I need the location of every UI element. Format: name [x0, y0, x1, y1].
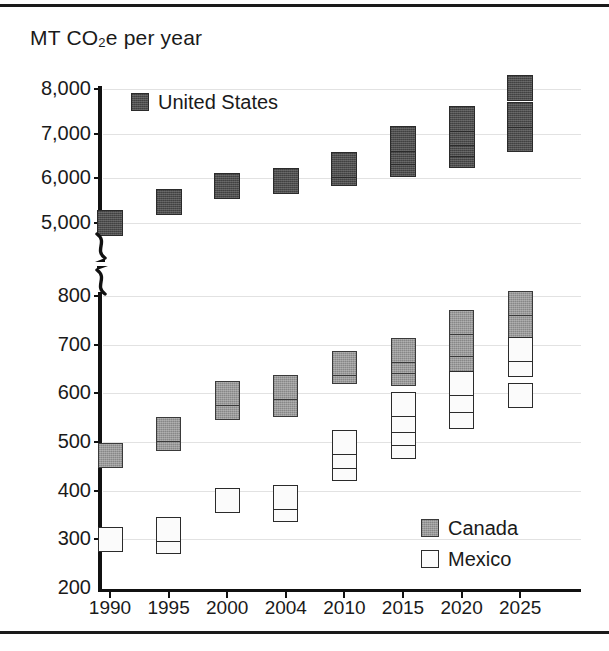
legend-item-united-states: United States [131, 92, 278, 112]
x-axis-label: 2025 [499, 597, 541, 619]
x-axis-label: 2000 [206, 597, 248, 619]
y-axis-label: 6,000 [41, 167, 91, 187]
data-marker [508, 291, 533, 316]
x-axis-label: 1995 [147, 597, 189, 619]
y-axis-label: 500 [58, 431, 91, 451]
x-axis-label: 2015 [382, 597, 424, 619]
gridline [103, 491, 581, 492]
x-axis-label: 2020 [440, 597, 482, 619]
data-marker [449, 106, 475, 132]
gridline [103, 223, 581, 224]
plot-area: 5,0006,0007,0008,00020030040050060070080… [0, 0, 609, 651]
y-axis-label: 5,000 [41, 212, 91, 232]
data-marker [508, 383, 533, 408]
x-axis-label: 2010 [323, 597, 365, 619]
y-axis-label: 200 [58, 577, 91, 597]
data-marker [507, 126, 533, 152]
y-axis-label: 300 [58, 528, 91, 548]
data-marker [156, 517, 181, 542]
legend-label-canada: Canada [448, 518, 518, 538]
data-marker [215, 488, 240, 513]
data-marker [332, 351, 357, 376]
legend-item-canada: Canada [421, 518, 518, 538]
legend-swatch-united-states-icon [131, 93, 149, 111]
x-axis-label: 1990 [89, 597, 131, 619]
y-axis-label: 700 [58, 334, 91, 354]
x-axis-line [98, 589, 581, 592]
y-axis-label: 8,000 [41, 78, 91, 98]
data-marker [507, 75, 533, 101]
data-marker [273, 485, 298, 510]
y-axis-label: 600 [58, 382, 91, 402]
legend-label-mexico: Mexico [448, 549, 511, 569]
y-axis-label: 800 [58, 285, 91, 305]
chart-figure: MT CO2e per year 5,0006,0007,0008,000200… [0, 0, 609, 651]
data-marker [449, 371, 474, 396]
legend-swatch-canada-icon [421, 519, 439, 537]
legend-item-mexico: Mexico [421, 549, 511, 569]
legend-swatch-mexico-icon [421, 550, 439, 568]
data-marker [156, 189, 182, 215]
x-axis-label: 2004 [265, 597, 307, 619]
data-marker [390, 126, 416, 152]
axis-break-icon [92, 232, 118, 296]
data-marker [391, 338, 416, 363]
data-marker [332, 430, 357, 455]
data-marker [273, 168, 299, 194]
y-axis-label: 400 [58, 480, 91, 500]
data-marker [273, 375, 298, 400]
data-marker [98, 443, 123, 468]
legend-label-united-states: United States [158, 92, 278, 112]
data-marker [508, 313, 533, 338]
data-marker [507, 102, 533, 128]
data-marker [214, 173, 240, 199]
data-marker [331, 152, 357, 178]
data-marker [508, 337, 533, 362]
data-marker [391, 392, 416, 417]
data-marker [449, 310, 474, 335]
data-marker [215, 381, 240, 406]
data-marker [449, 332, 474, 357]
y-axis-label: 7,000 [41, 123, 91, 143]
data-marker [156, 417, 181, 442]
data-marker [98, 527, 123, 552]
